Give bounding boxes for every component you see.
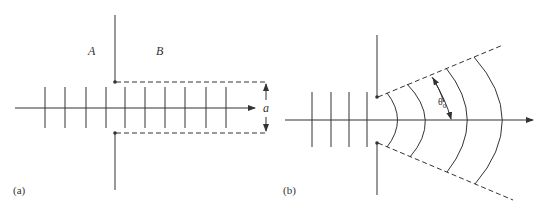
- diffraction-diagram: [0, 0, 548, 213]
- region-b-label: B: [156, 44, 163, 59]
- aperture-dimension-label: a: [263, 101, 269, 116]
- divergence-edge-bottom: [378, 143, 513, 200]
- divergence-edge-top: [378, 45, 503, 97]
- angle-label: θ0: [438, 96, 446, 110]
- panel-b: [285, 35, 533, 200]
- panel-a-label: (a): [13, 184, 25, 196]
- panel-b-label: (b): [283, 184, 296, 196]
- panel-a: [15, 15, 267, 190]
- region-a-label: A: [88, 44, 95, 59]
